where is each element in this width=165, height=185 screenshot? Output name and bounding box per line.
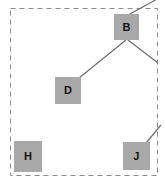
diagram-canvas: B D H J [0,0,165,185]
graph-node-b-label: B [122,22,130,33]
graph-node-j-label: J [133,151,139,162]
graph-node-h-label: H [24,151,32,162]
edge-b-up-right [128,0,161,15]
edge-b-down-right [128,40,158,63]
edge-j-up-right [146,125,161,143]
graph-node-d[interactable]: D [55,77,81,104]
graph-node-j[interactable]: J [123,142,150,170]
graph-node-b[interactable]: B [114,14,139,40]
edge-b-to-d [79,40,126,78]
graph-node-h[interactable]: H [14,141,42,172]
graph-node-d-label: D [64,85,72,96]
